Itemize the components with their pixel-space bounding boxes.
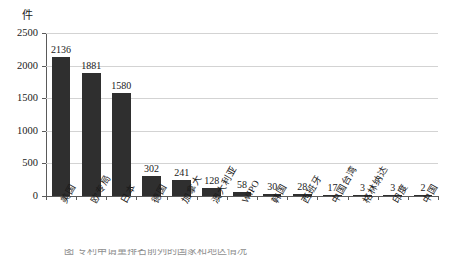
figure-caption-clipped: 图 专利申请量排名前列的国家和地区情况: [0, 249, 456, 257]
y-axis-tick-label: 2500: [0, 27, 38, 38]
y-axis-unit-label: 件: [22, 9, 33, 21]
x-axis-tick-mark: [438, 196, 439, 200]
figure-caption-text: 图 专利申请量排名前列的国家和地区情况: [64, 249, 247, 257]
bar-value-label: 1881: [76, 60, 106, 71]
gridline: [46, 33, 438, 34]
y-axis-tick-label: 2000: [0, 60, 38, 71]
gridline: [46, 98, 438, 99]
y-axis-tick-label: 1000: [0, 125, 38, 136]
bar: [82, 73, 101, 196]
bar-value-label: 302: [136, 163, 166, 174]
gridline: [46, 163, 438, 164]
bar: [52, 57, 71, 196]
bar: [112, 93, 131, 196]
gridline: [46, 131, 438, 132]
y-axis-tick-label: 1500: [0, 92, 38, 103]
y-axis-tick-label: 0: [0, 190, 38, 201]
bar-value-label: 2136: [46, 44, 76, 55]
bar-value-label: 1580: [106, 80, 136, 91]
y-axis-tick-label: 500: [0, 157, 38, 168]
chart-figure: 件 05001000150020002500 21361881158030224…: [0, 0, 456, 257]
